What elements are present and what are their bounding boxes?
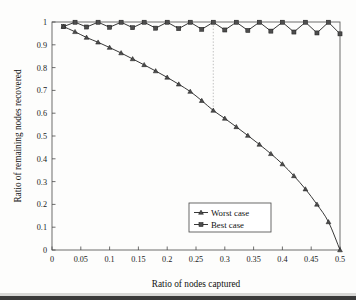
y-tick-label: 1 bbox=[43, 18, 47, 27]
data-point-marker bbox=[326, 20, 330, 24]
y-tick-label: 0.2 bbox=[37, 200, 47, 209]
y-tick-label: 0.7 bbox=[37, 86, 47, 95]
data-point-marker bbox=[222, 116, 227, 120]
x-tick-label: 0.15 bbox=[131, 255, 145, 264]
data-point-marker bbox=[142, 20, 146, 24]
data-point-marker bbox=[130, 57, 135, 61]
data-point-marker bbox=[73, 20, 77, 24]
data-point-marker bbox=[153, 69, 158, 73]
data-point-marker bbox=[338, 32, 342, 36]
data-point-marker bbox=[119, 51, 124, 55]
x-tick-label: 0.3 bbox=[220, 255, 230, 264]
data-point-marker bbox=[107, 45, 112, 49]
y-tick-label: 0.3 bbox=[37, 178, 47, 187]
data-point-marker bbox=[200, 27, 204, 31]
data-point-marker bbox=[269, 29, 273, 33]
data-point-marker bbox=[84, 35, 89, 39]
data-point-marker bbox=[246, 28, 250, 32]
y-tick-label: 0.5 bbox=[37, 132, 47, 141]
data-point-marker bbox=[119, 20, 123, 24]
data-point-marker bbox=[326, 220, 331, 224]
data-point-marker bbox=[96, 20, 100, 24]
data-point-marker bbox=[257, 20, 261, 24]
data-point-marker bbox=[188, 89, 193, 93]
x-axis-title: Ratio of nodes captured bbox=[152, 279, 241, 289]
x-tick-label: 0.1 bbox=[104, 255, 114, 264]
scan-artifact-band bbox=[0, 296, 356, 300]
data-point-marker bbox=[199, 222, 203, 226]
x-tick-label: 0 bbox=[50, 255, 54, 264]
data-point-marker bbox=[234, 20, 238, 24]
line-chart: 00.050.10.150.20.250.30.350.40.450.5 00.… bbox=[0, 0, 356, 300]
y-tick-label: 0.1 bbox=[37, 223, 47, 232]
figure-canvas: 00.050.10.150.20.250.30.350.40.450.5 00.… bbox=[0, 0, 356, 300]
x-tick-label: 0.2 bbox=[162, 255, 172, 264]
data-point-marker bbox=[131, 26, 135, 30]
data-point-marker bbox=[108, 25, 112, 29]
y-axis-tick-labels: 00.10.20.30.40.50.60.70.80.91 bbox=[37, 18, 47, 255]
y-tick-label: 0.6 bbox=[37, 109, 47, 118]
data-point-marker bbox=[73, 29, 78, 33]
legend-label-worst-case: Worst case bbox=[211, 208, 249, 218]
x-tick-label: 0.35 bbox=[246, 255, 260, 264]
data-point-marker bbox=[303, 20, 307, 24]
data-point-marker bbox=[154, 26, 158, 30]
x-tick-label: 0.05 bbox=[74, 255, 88, 264]
data-point-marker bbox=[85, 25, 89, 29]
data-point-marker bbox=[280, 20, 284, 24]
y-tick-label: 0 bbox=[43, 246, 47, 255]
y-tick-label: 0.8 bbox=[37, 64, 47, 73]
data-point-marker bbox=[315, 31, 319, 35]
x-axis-ticks bbox=[52, 247, 340, 251]
chart-page: 00.050.10.150.20.250.30.350.40.450.5 00.… bbox=[0, 0, 356, 300]
data-point-marker bbox=[292, 30, 296, 34]
series-best-case bbox=[61, 20, 342, 36]
y-tick-label: 0.4 bbox=[37, 155, 47, 164]
data-point-marker bbox=[223, 28, 227, 32]
y-axis-ticks bbox=[52, 22, 56, 250]
data-point-marker bbox=[165, 20, 169, 24]
x-tick-label: 0.5 bbox=[335, 255, 345, 264]
y-tick-label: 0.9 bbox=[37, 41, 47, 50]
data-point-marker bbox=[177, 27, 181, 31]
data-point-marker bbox=[176, 82, 181, 86]
data-point-marker bbox=[142, 62, 147, 66]
data-point-marker bbox=[165, 75, 170, 79]
x-tick-label: 0.4 bbox=[277, 255, 287, 264]
data-point-marker bbox=[188, 20, 192, 24]
legend-label-best-case: Best case bbox=[211, 220, 244, 230]
data-point-marker bbox=[211, 20, 215, 24]
x-tick-label: 0.25 bbox=[189, 255, 203, 264]
x-axis-tick-labels: 00.050.10.150.20.250.30.350.40.450.5 bbox=[50, 255, 345, 264]
y-axis-title: Ratio of remaining nodes recovered bbox=[13, 69, 23, 203]
chart-legend: Worst case Best case bbox=[189, 203, 271, 232]
x-tick-label: 0.45 bbox=[304, 255, 318, 264]
